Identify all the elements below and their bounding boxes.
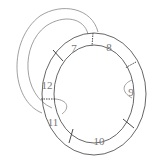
ring-diagram: 7 8 9 10 11 12 xyxy=(0,0,152,160)
segment-label-8: 8 xyxy=(106,41,112,53)
loop-band xyxy=(17,9,98,113)
segment-label-11: 11 xyxy=(48,116,59,128)
segment-label-9: 9 xyxy=(128,86,134,98)
segment-label-12: 12 xyxy=(42,79,53,91)
segment-label-10: 10 xyxy=(94,135,106,147)
segment-label-7: 7 xyxy=(71,42,77,54)
notches xyxy=(55,80,132,114)
